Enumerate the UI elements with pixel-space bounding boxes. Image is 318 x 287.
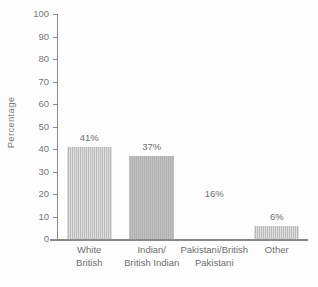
y-axis-tick-mark xyxy=(53,149,58,150)
plot-area: 1009080706050403020100 41%37%16%6% xyxy=(58,14,308,239)
y-axis-tick-label: 70 xyxy=(38,76,49,87)
bar xyxy=(129,156,174,239)
y-axis-tick-mark xyxy=(53,217,58,218)
bar-value-label: 37% xyxy=(122,141,182,152)
x-axis-category-label: Other xyxy=(217,244,318,257)
y-axis-tick-label: 100 xyxy=(33,8,49,19)
y-axis-tick-mark xyxy=(53,14,58,15)
y-axis-tick-label: 30 xyxy=(38,166,49,177)
y-axis-tick-mark xyxy=(53,104,58,105)
bar-value-label: 6% xyxy=(247,211,307,222)
y-axis-tick-mark xyxy=(53,82,58,83)
bar-value-label: 41% xyxy=(59,132,119,143)
y-axis-tick-mark xyxy=(53,172,58,173)
y-axis-tick-label: 60 xyxy=(38,98,49,109)
y-axis-tick-label: 20 xyxy=(38,188,49,199)
bar xyxy=(67,147,112,239)
y-axis-tick-mark xyxy=(53,37,58,38)
y-axis-tick-mark xyxy=(53,194,58,195)
category-label-line-2: Pakistani xyxy=(154,257,274,270)
y-axis-tick-label: 10 xyxy=(38,211,49,222)
y-axis-title: Percentage xyxy=(0,0,22,245)
bar-value-label: 16% xyxy=(184,188,244,199)
x-axis-line xyxy=(50,239,308,241)
y-axis-tick-label: 90 xyxy=(38,31,49,42)
bar xyxy=(192,203,237,239)
bar xyxy=(254,226,299,240)
y-axis-tick-label: 40 xyxy=(38,143,49,154)
y-axis-tick-label: 0 xyxy=(44,233,49,244)
y-axis-tick-mark xyxy=(53,239,58,240)
y-axis-title-label: Percentage xyxy=(6,97,17,149)
category-label-line-1: Other xyxy=(265,244,289,255)
bar-chart: Percentage 1009080706050403020100 41%37%… xyxy=(0,0,318,287)
y-axis-tick-mark xyxy=(53,59,58,60)
y-axis-tick-mark xyxy=(53,127,58,128)
y-axis-tick-label: 50 xyxy=(38,121,49,132)
y-axis-tick-label: 80 xyxy=(38,53,49,64)
